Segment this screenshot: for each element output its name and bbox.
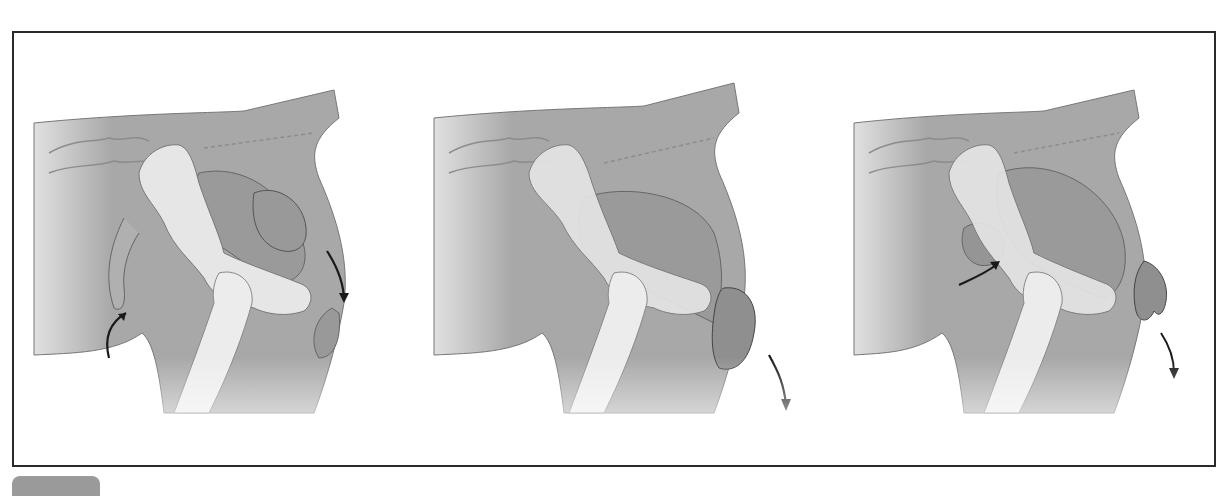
illustration-panel-3 <box>814 33 1214 465</box>
figure-frame <box>12 31 1216 467</box>
cow-pelvis-illustration-1 <box>14 33 414 465</box>
cow-pelvis-illustration-3 <box>814 33 1214 465</box>
illustration-panel-1 <box>14 33 414 465</box>
figure-label-tab <box>12 476 100 496</box>
illustration-panel-2 <box>414 33 814 465</box>
figure-label-text <box>12 476 13 477</box>
cow-pelvis-illustration-2 <box>414 33 814 465</box>
